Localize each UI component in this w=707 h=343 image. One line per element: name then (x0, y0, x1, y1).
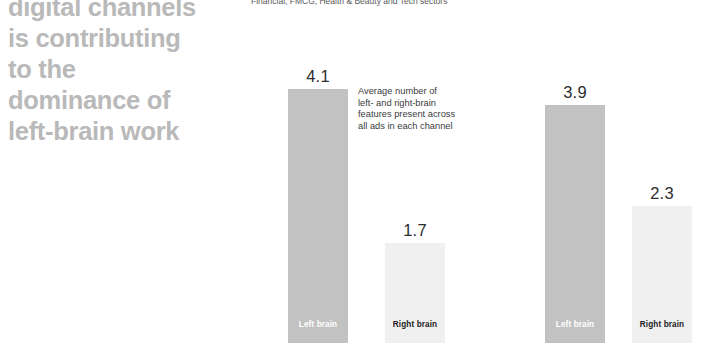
bar-value-label: 4.1 (288, 67, 348, 85)
bar-value-label: 2.3 (632, 184, 692, 202)
bar-value-label: 1.7 (385, 221, 445, 239)
bar-category-label: Right brain (632, 320, 692, 329)
bar-right-brain[interactable]: Right brain (632, 206, 692, 343)
bar-chart: 4.1 Left brain 1.7 Right brain 3.9 Left … (0, 0, 707, 343)
bar-category-label: Left brain (288, 320, 348, 329)
bar-left-brain[interactable]: Left brain (545, 105, 605, 343)
bar-category-label: Left brain (545, 320, 605, 329)
bar-left-brain[interactable]: Left brain (288, 89, 348, 343)
bar-category-label: Right brain (385, 320, 445, 329)
slide-canvas: digital channels is contributing to the … (0, 0, 707, 343)
bar-value-label: 3.9 (545, 83, 605, 101)
bar-right-brain[interactable]: Right brain (385, 243, 445, 343)
